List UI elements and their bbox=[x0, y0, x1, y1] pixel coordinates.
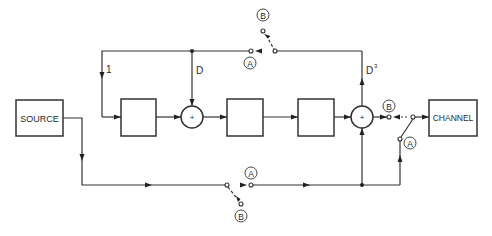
arrow-down-icon bbox=[100, 72, 105, 79]
bottom-switch-label-a: A bbox=[248, 169, 254, 179]
arrow-left-icon bbox=[255, 49, 262, 54]
arrow-right-icon bbox=[344, 115, 351, 120]
arrow-right-icon bbox=[114, 115, 121, 120]
branch-label-d: D bbox=[196, 65, 203, 76]
branch-label-d3-exponent: 3 bbox=[374, 63, 378, 69]
summer-2: + bbox=[351, 106, 373, 128]
arrow-right-icon bbox=[422, 115, 429, 120]
arrow-down-icon bbox=[190, 99, 195, 106]
source-block: SOURCE bbox=[16, 100, 63, 136]
output-switch-contact-b bbox=[387, 115, 391, 119]
arrow-left-icon bbox=[393, 115, 400, 120]
arrow-right-icon bbox=[291, 115, 298, 120]
arrow-right-icon bbox=[380, 115, 387, 120]
block-1 bbox=[121, 99, 156, 136]
bottom-switch-contact-b bbox=[239, 202, 243, 206]
block-3 bbox=[298, 99, 334, 136]
summer-1-plus: + bbox=[190, 113, 195, 122]
arrow-up-icon bbox=[398, 155, 403, 162]
branch-label-d3: D bbox=[366, 65, 373, 76]
channel-block: CHANNEL bbox=[429, 100, 477, 136]
arrow-up-icon bbox=[360, 78, 365, 85]
summer-2-plus: + bbox=[360, 113, 365, 122]
source-label: SOURCE bbox=[20, 114, 59, 124]
arrow-up-icon bbox=[360, 128, 365, 135]
arrow-down-right-icon bbox=[236, 196, 241, 202]
output-switch-pivot bbox=[411, 115, 415, 119]
output-switch: B A bbox=[383, 100, 429, 149]
block-2 bbox=[227, 99, 263, 136]
output-switch-contact-a bbox=[398, 137, 402, 141]
arrow-right-icon bbox=[240, 183, 247, 188]
bottom-switch-label-b: B bbox=[238, 212, 244, 222]
top-switch-contact-b bbox=[261, 29, 265, 33]
summer-1: + bbox=[181, 106, 203, 128]
encoder-block-diagram: SOURCE CHANNEL + + 1 D D 3 bbox=[0, 0, 492, 236]
top-switch-contact-a bbox=[249, 49, 253, 53]
top-switch-pivot bbox=[273, 49, 277, 53]
arrow-right-icon bbox=[174, 115, 181, 120]
arrow-right-icon bbox=[145, 183, 152, 188]
bottom-switch-contact-a bbox=[249, 183, 253, 187]
bottom-switch-pivot bbox=[225, 183, 229, 187]
output-switch-label-a: A bbox=[407, 139, 413, 149]
junction-dot bbox=[360, 183, 364, 187]
arrow-down-icon bbox=[80, 154, 85, 161]
top-switch: A B bbox=[244, 9, 277, 69]
arrow-right-icon bbox=[303, 183, 310, 188]
output-switch-label-b: B bbox=[386, 102, 392, 112]
top-switch-label-b: B bbox=[260, 11, 266, 21]
channel-label: CHANNEL bbox=[433, 113, 474, 123]
bottom-switch: A B bbox=[225, 167, 257, 222]
branch-label-1: 1 bbox=[106, 64, 112, 75]
top-switch-label-a: A bbox=[247, 59, 253, 69]
junction-dot bbox=[190, 49, 194, 53]
arrow-right-icon bbox=[220, 115, 227, 120]
